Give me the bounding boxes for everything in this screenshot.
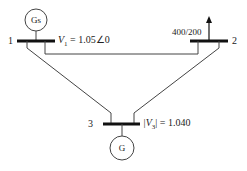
bus-3-voltage-annotation: |V3| = 1.040 — [143, 118, 191, 131]
bus-2-label: 2 — [232, 36, 237, 46]
generator-gs: Gs — [25, 9, 47, 41]
bus-3-voltage-value: | = 1.040 — [155, 117, 190, 128]
bus-3-label: 3 — [88, 119, 93, 129]
line-1-3 — [27, 41, 111, 124]
bus-3-voltage-symbol: |V — [143, 117, 152, 128]
load-arrow-icon — [206, 16, 212, 41]
line-2-3 — [134, 41, 219, 124]
one-line-diagram: Gs G — [0, 0, 247, 171]
bus-2-load-label: 400/200 — [172, 28, 202, 37]
bus-1-label: 1 — [8, 36, 13, 46]
generator-g: G — [110, 124, 134, 160]
generator-gs-label: Gs — [31, 15, 41, 25]
generator-g-label: G — [119, 143, 126, 153]
bus-1-voltage-value: = 1.05∠0 — [68, 34, 110, 45]
bus-1-voltage-annotation: V1 = 1.05∠0 — [58, 35, 110, 48]
